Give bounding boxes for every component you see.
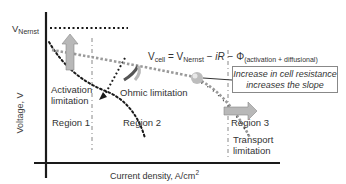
sphere-highlight <box>193 74 198 79</box>
x-axis-label: Current density, A/cm2 <box>110 167 199 182</box>
equation: Vcell = VNernst − iR − Φ(activation + di… <box>148 51 318 65</box>
activation-label: Activation limitation <box>51 84 92 106</box>
ohmic-label: Ohmic limitation <box>120 87 188 98</box>
y-axis-label: Voltage, V <box>15 83 25 143</box>
annotation-box: Increase in cell resistance increases th… <box>232 66 338 93</box>
annotation-line-1: Increase in cell resistance <box>233 69 337 80</box>
region-2-label: Region 2 <box>123 117 161 128</box>
region-1-label: Region 1 <box>52 117 90 128</box>
transport-label: Transport limitation <box>233 134 273 156</box>
annotation-line-2: increases the slope <box>233 80 337 91</box>
up-arrow-icon <box>62 34 78 70</box>
region-3-label: Region 3 <box>231 117 269 128</box>
v-nernst-label: VNernst <box>12 23 39 37</box>
sphere-marker-icon <box>191 72 203 84</box>
arrowhead-icon <box>99 92 107 100</box>
